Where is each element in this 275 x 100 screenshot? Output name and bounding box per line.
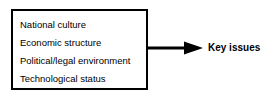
factor-item-national-culture: National culture — [20, 16, 130, 34]
factor-item-political-legal-environment: Political/legal environment — [20, 52, 130, 70]
arrow-right-icon — [146, 40, 206, 58]
factor-item-technological-status: Technological status — [20, 70, 130, 88]
diagram-canvas: National culture Economic structure Poli… — [0, 0, 275, 100]
key-issues-label: Key issues — [208, 41, 260, 55]
factors-list: National culture Economic structure Poli… — [20, 16, 130, 88]
factor-item-economic-structure: Economic structure — [20, 34, 130, 52]
factors-box: National culture Economic structure Poli… — [11, 9, 148, 90]
